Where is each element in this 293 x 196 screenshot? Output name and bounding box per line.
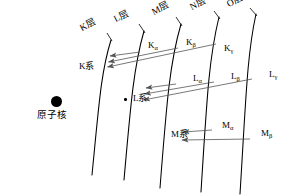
transition-label-L-gamma: Lγ (269, 70, 277, 79)
shell-arcs-group (92, 14, 256, 194)
transition-arrow-K-gamma (108, 44, 217, 67)
transition-subscript: γ (231, 47, 234, 54)
transition-label-K-alpha: Kα (148, 41, 158, 50)
nucleus-dot-icon (51, 96, 62, 107)
transition-arrow-L-alpha (146, 84, 176, 88)
transition-label-K-gamma: Kγ (224, 44, 233, 53)
electron-vacancy-dot (124, 98, 127, 101)
transition-symbol: K (186, 37, 193, 47)
transition-arrow-M-beta (182, 139, 250, 140)
shell-arc-K (92, 40, 111, 175)
transition-label-K-beta: Kβ (186, 38, 196, 47)
transition-symbol: L (193, 73, 199, 83)
transition-subscript: β (269, 132, 272, 139)
transition-subscript: β (237, 75, 240, 82)
xray-series-diagram: 原子核 K层 L层 M层 N层 O层 K系 L系 M系 Kα Kβ Kγ Lα … (0, 0, 293, 196)
transition-subscript: α (230, 124, 233, 131)
transition-symbol: K (224, 43, 231, 53)
series-label-L: L系 (133, 94, 148, 103)
m-series-arrows (182, 130, 250, 140)
leader-N (214, 11, 220, 19)
series-label-K: K系 (79, 62, 95, 71)
transition-subscript: β (193, 41, 196, 48)
transition-symbol: M (261, 128, 269, 138)
transition-label-L-beta: Lβ (231, 72, 240, 81)
nucleus-label: 原子核 (37, 111, 67, 121)
k-series-arrows (108, 44, 217, 67)
shell-label-leaders (107, 8, 257, 41)
transition-symbol: K (148, 40, 155, 50)
leader-L (139, 24, 145, 33)
transition-subscript: α (155, 44, 158, 51)
transition-subscript: γ (275, 73, 278, 80)
transition-symbol: L (269, 69, 275, 79)
transition-arrow-K-alpha (110, 52, 140, 56)
leader-O (250, 8, 257, 16)
series-label-M: M系 (171, 130, 188, 139)
shell-arc-M (160, 24, 181, 188)
transition-label-L-alpha: Lα (193, 74, 202, 83)
shell-arc-N (201, 17, 219, 192)
transition-subscript: α (199, 77, 202, 84)
transition-label-M-alpha: Mα (222, 121, 233, 130)
shell-arc-O (240, 14, 256, 194)
leader-K (107, 33, 112, 41)
transition-symbol: M (222, 120, 230, 130)
leader-M (176, 17, 182, 26)
transition-label-M-beta: Mβ (261, 129, 272, 138)
transition-symbol: L (231, 71, 237, 81)
